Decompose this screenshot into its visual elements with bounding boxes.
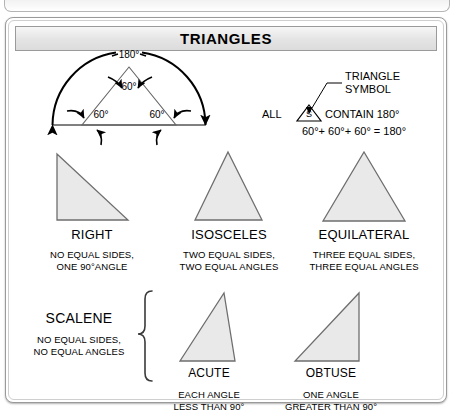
variant-desc-acute-line1: EACH ANGLE (178, 389, 240, 401)
left-base-angle-label: 60° (93, 109, 108, 120)
symbol-sentence-prefix: ALL (262, 108, 282, 120)
type-desc-right-line1: NO EQUAL SIDES, (50, 249, 134, 261)
variant-desc-obtuse-line2: GREATER THAN 90° (285, 401, 377, 413)
variant-name-obtuse: OBTUSE (306, 366, 357, 380)
triangle-symbol-letter: S (306, 109, 312, 119)
right-base-angle-label: 60° (149, 109, 164, 120)
scalene-desc-line1: NO EQUAL SIDES, (37, 334, 121, 346)
card-inner-border: TRIANGLES (8, 20, 444, 400)
type-desc-equilateral-line2: THREE EQUAL ANGLES (309, 261, 418, 273)
symbol-sentence-suffix: CONTAIN 180° (325, 108, 400, 120)
type-name-equilateral: EQUILATERAL (319, 227, 410, 242)
type-name-isosceles: ISOSCELES (191, 227, 267, 242)
type-desc-isosceles-line1: TWO EQUAL SIDES, (183, 249, 275, 261)
type-desc-equilateral-line1: THREE EQUAL SIDES, (313, 249, 415, 261)
variant-name-acute: ACUTE (188, 366, 230, 380)
scalene-name: SCALENE (46, 310, 113, 326)
angle-sum-equation: 60°+ 60°+ 60° = 180° (302, 125, 406, 137)
triangles-reference-card: TRIANGLES (5, 17, 447, 403)
text-layer: 180° 60° 60° 60° TRIANGLE SYMBOL ALL S C… (9, 21, 451, 407)
apex-angle-label: 60° (121, 81, 136, 92)
variant-desc-obtuse-line1: ONE ANGLE (303, 389, 359, 401)
type-name-right: RIGHT (71, 227, 112, 242)
scalene-desc-line2: NO EQUAL ANGLES (34, 346, 125, 358)
type-desc-isosceles-line2: TWO EQUAL ANGLES (180, 261, 279, 273)
arc-angle-label: 180° (119, 49, 140, 60)
callout-label-line1: TRIANGLE (345, 70, 400, 82)
callout-label-line2: SYMBOL (345, 83, 391, 95)
page-top-panel-edge (4, 0, 450, 12)
type-desc-right-line2: ONE 90°ANGLE (57, 261, 128, 273)
variant-desc-acute-line2: LESS THAN 90° (174, 401, 245, 413)
